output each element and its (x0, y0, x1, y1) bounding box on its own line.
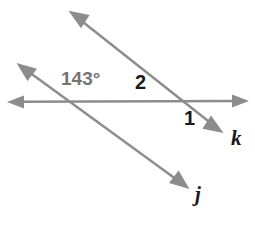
line-j-lower-right-arrowhead (169, 171, 190, 189)
geometry-canvas (0, 0, 255, 235)
line-j (29, 72, 178, 180)
angle-label-1: 1 (184, 108, 195, 128)
horizontal-line-right-arrowhead (232, 95, 249, 108)
geometry-diagram: 143° 2 1 k j (0, 0, 255, 235)
line-label-k: k (231, 128, 242, 149)
angle-label-2: 2 (135, 72, 146, 92)
line-label-j: j (195, 184, 201, 205)
angle-measure-label: 143° (61, 69, 100, 88)
horizontal-line-left-arrowhead (7, 96, 24, 109)
line-j-group (17, 63, 190, 189)
horizontal-line (20, 101, 236, 102)
horizontal-line-group (7, 95, 249, 109)
line-j-upper-left-arrowhead (17, 63, 38, 81)
